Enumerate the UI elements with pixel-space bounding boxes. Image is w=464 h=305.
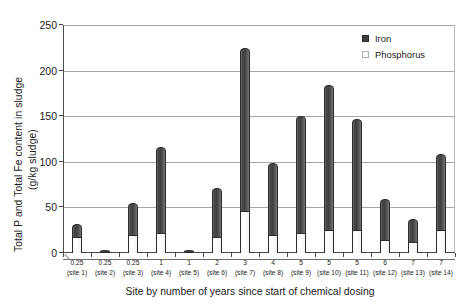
x-tick-site: (site 1): [67, 268, 87, 278]
x-tick-site: (site 8): [263, 268, 283, 278]
bar-slot: [324, 25, 334, 253]
x-axis-tick-label: 1(site 5): [179, 258, 199, 277]
x-tick-years: 7: [401, 258, 425, 268]
x-tick-years: 0.25: [67, 258, 87, 268]
x-axis-tick-mark: [203, 253, 204, 257]
stacked-bar[interactable]: [352, 119, 362, 253]
y-axis-tick-label: 100: [39, 156, 57, 168]
chart-legend: Iron Phosphorus: [362, 33, 425, 65]
x-axis-tick-label: 3(site 7): [235, 258, 255, 277]
x-tick-years: 6: [373, 258, 397, 268]
x-axis-tick-label: 5(site 9): [291, 258, 311, 277]
stacked-bar[interactable]: [408, 219, 418, 253]
x-tick-site: (site 14): [429, 268, 453, 278]
x-axis-tick-mark: [371, 253, 372, 257]
bar-segment-phosphorus: [408, 242, 418, 253]
stacked-bar[interactable]: [100, 250, 110, 253]
x-tick-site: (site 9): [291, 268, 311, 278]
x-tick-years: 1: [179, 258, 199, 268]
x-tick-years: 5: [317, 258, 341, 268]
x-tick-site: (site 7): [235, 268, 255, 278]
bar-chart: Total P and Total Fe content in sludge (…: [0, 0, 464, 305]
bar-segment-iron: [268, 163, 278, 235]
x-axis-tick-label: 4(site 8): [263, 258, 283, 277]
x-tick-site: (site 11): [345, 268, 368, 278]
stacked-bar[interactable]: [240, 48, 250, 253]
x-axis-tick-label: 2(site 6): [207, 258, 227, 277]
stacked-bar[interactable]: [380, 199, 390, 253]
bar-segment-phosphorus: [128, 235, 138, 253]
bar-segment-phosphorus: [324, 230, 334, 253]
bar-segment-iron: [156, 147, 166, 233]
bar-segment-iron: [240, 48, 250, 211]
bar-slot: [100, 25, 110, 253]
x-tick-site: (site 6): [207, 268, 227, 278]
x-axis-title: Site by number of years since start of c…: [40, 286, 460, 297]
bar-slot: [184, 25, 194, 253]
stacked-bar[interactable]: [324, 85, 334, 253]
stacked-bar[interactable]: [212, 188, 222, 253]
x-axis-tick-mark: [119, 253, 120, 257]
bar-segment-iron: [128, 203, 138, 235]
x-tick-years: 7: [429, 258, 453, 268]
stacked-bar[interactable]: [184, 250, 194, 253]
bar-segment-zero: [100, 250, 110, 253]
bar-segment-iron: [352, 119, 362, 230]
bar-segment-iron: [380, 199, 390, 240]
stacked-bar[interactable]: [128, 203, 138, 253]
bar-slot: [212, 25, 222, 253]
stacked-bar[interactable]: [436, 154, 446, 253]
y-axis-title: Total P and Total Fe content in sludge (…: [0, 0, 40, 262]
x-axis-tick-label: 7(site 13): [401, 258, 425, 277]
bar-slot: [72, 25, 82, 253]
bar-segment-phosphorus: [156, 233, 166, 253]
legend-label-phosphorus: Phosphorus: [375, 49, 425, 60]
bar-segment-iron: [72, 224, 82, 237]
bar-segment-phosphorus: [352, 230, 362, 253]
x-axis-tick-mark: [91, 253, 92, 257]
stacked-bar[interactable]: [268, 163, 278, 253]
x-axis-tick-mark: [231, 253, 232, 257]
x-tick-site: (site 4): [151, 268, 171, 278]
x-tick-years: 0.25: [123, 258, 143, 268]
legend-swatch-phosphorus-icon: [362, 51, 369, 58]
x-tick-years: 5: [345, 258, 368, 268]
x-axis-tick-mark: [343, 253, 344, 257]
x-axis-tick-mark: [175, 253, 176, 257]
legend-item-iron: Iron: [362, 33, 425, 44]
stacked-bar[interactable]: [156, 147, 166, 253]
bar-segment-iron: [436, 154, 446, 231]
x-axis-tick-label: 7(site 14): [429, 258, 453, 277]
y-axis-tick-label: 150: [39, 110, 57, 122]
x-axis-tick-label: 5(site 10): [317, 258, 341, 277]
y-axis-tick-label: 50: [45, 201, 57, 213]
x-axis-tick-label: 0.25(site 1): [67, 258, 87, 277]
y-axis-title-line2: (g/kg sludge): [27, 0, 38, 190]
x-tick-years: 4: [263, 258, 283, 268]
bar-slot: [156, 25, 166, 253]
y-axis-tick-label: 250: [39, 19, 57, 31]
x-axis-tick-label: 0.25(site 2): [95, 258, 115, 277]
bar-segment-phosphorus: [380, 240, 390, 253]
bar-segment-phosphorus: [72, 237, 82, 253]
legend-item-phosphorus: Phosphorus: [362, 49, 425, 60]
x-tick-years: 5: [291, 258, 311, 268]
x-axis-tick-mark: [399, 253, 400, 257]
stacked-bar[interactable]: [296, 116, 306, 253]
x-axis-tick-mark: [315, 253, 316, 257]
x-axis-tick-label: 5(site 11): [345, 258, 368, 277]
x-axis-tick-label: 1(site 4): [151, 258, 171, 277]
x-axis-tick-mark: [427, 253, 428, 257]
bar-segment-zero: [184, 250, 194, 253]
bar-slot: [240, 25, 250, 253]
bar-slot: [128, 25, 138, 253]
stacked-bar[interactable]: [72, 224, 82, 253]
bar-segment-iron: [408, 219, 418, 242]
x-tick-site: (site 3): [123, 268, 143, 278]
y-axis-title-line1: Total P and Total Fe content in sludge: [13, 0, 24, 252]
bar-segment-phosphorus: [268, 235, 278, 253]
x-tick-site: (site 5): [179, 268, 199, 278]
y-axis-tick-label: 200: [39, 65, 57, 77]
x-axis-tick-mark: [287, 253, 288, 257]
bar-slot: [352, 25, 362, 253]
